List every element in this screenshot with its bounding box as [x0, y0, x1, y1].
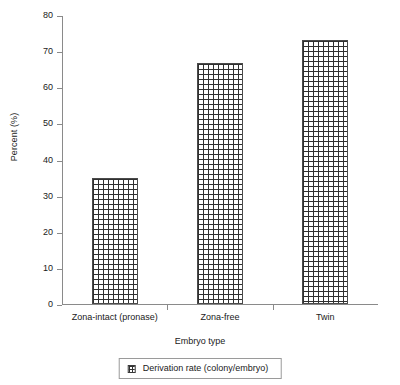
bar: [197, 63, 243, 304]
y-axis-tick: 70: [57, 52, 62, 53]
y-axis-tick-label: 40: [43, 155, 53, 166]
x-axis-label: Embryo type: [0, 336, 400, 346]
y-axis-tick-label: 30: [43, 191, 53, 202]
legend-swatch-icon: [128, 365, 136, 373]
y-axis-tick: 50: [57, 124, 62, 125]
bar-chart-figure: Percent (%) 01020304050607080 Zona-intac…: [0, 0, 400, 385]
y-axis-tick-label: 0: [48, 299, 53, 310]
x-axis-category-label: Zona-free: [200, 312, 239, 323]
y-axis-tick-label: 60: [43, 82, 53, 93]
y-axis-tick-label: 10: [43, 263, 53, 274]
y-axis-tick: 10: [57, 269, 62, 270]
y-axis-tick: 0: [57, 305, 62, 306]
x-axis-category-label: Twin: [316, 312, 335, 323]
bar: [302, 40, 348, 304]
x-axis-line: [62, 304, 378, 305]
y-axis-tick-label: 20: [43, 227, 53, 238]
chart-legend: Derivation rate (colony/embryo): [119, 358, 282, 379]
y-axis-tick: 60: [57, 88, 62, 89]
y-axis-tick: 80: [57, 16, 62, 17]
y-axis-tick-label: 70: [43, 46, 53, 57]
bar: [92, 178, 138, 304]
y-axis-label: Percent (%): [9, 87, 19, 187]
x-axis-category-label: Zona-intact (pronase): [72, 312, 158, 323]
y-axis-tick: 20: [57, 233, 62, 234]
x-axis-tick: [167, 305, 168, 310]
legend-entry-label: Derivation rate (colony/embryo): [143, 363, 269, 374]
y-axis-tick-label: 50: [43, 118, 53, 129]
y-axis-tick-label: 80: [43, 10, 53, 21]
x-axis-tick: [273, 305, 274, 310]
y-axis-tick: 40: [57, 161, 62, 162]
y-axis-line: [62, 16, 63, 305]
y-axis-tick: 30: [57, 197, 62, 198]
plot-area: 01020304050607080: [62, 16, 378, 305]
